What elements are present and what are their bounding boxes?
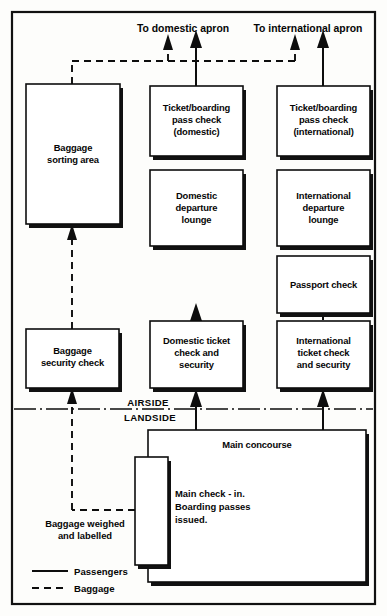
box-label-line-0: Passport check xyxy=(290,279,358,290)
box-label-line-2: and security xyxy=(297,359,351,370)
box-international-ticket-check-and-security[interactable]: International ticket check and security xyxy=(277,321,373,392)
box-label-line-1: pass check xyxy=(172,114,222,125)
box-label-line-0: Ticket/boarding xyxy=(290,102,358,113)
box-label-line-0: International xyxy=(296,190,350,201)
box-label-line-0: Baggage xyxy=(53,345,92,356)
box-label-line-0: Main concourse xyxy=(222,439,291,450)
label-airside: AIRSIDE xyxy=(127,397,169,408)
box-label-line-2: security xyxy=(179,359,215,370)
legend-passengers-label: Passengers xyxy=(74,566,128,577)
label-to-international-apron: To international apron xyxy=(254,23,363,34)
box-label-line-0: Ticket/boarding xyxy=(163,102,231,113)
box-label-line-0: Domestic ticket xyxy=(163,335,230,346)
box-label-line-0: Baggage xyxy=(54,142,93,153)
flow-diagram-canvas: Baggage sorting area Ticket/boarding pas… xyxy=(0,0,387,616)
box-label-line-2: (international) xyxy=(293,126,353,137)
box-baggage-sorting-area[interactable]: Baggage sorting area xyxy=(26,84,123,228)
note-line-0: Main check - in. xyxy=(175,488,245,499)
box-ticket-boarding-pass-check-domestic[interactable]: Ticket/boarding pass check (domestic) xyxy=(150,86,246,160)
box-label-line-2: (domestic) xyxy=(174,126,220,137)
box-international-departure-lounge[interactable]: International departure lounge xyxy=(277,170,373,250)
box-passport-check[interactable]: Passport check xyxy=(277,256,373,317)
box-domestic-departure-lounge[interactable]: Domestic departure lounge xyxy=(150,170,246,250)
box-label-line-2: lounge xyxy=(182,214,212,225)
box-label-line-0: Domestic xyxy=(176,190,217,201)
baggage-weighed-line-1: and labelled xyxy=(58,530,112,541)
box-label-line-1: sorting area xyxy=(47,154,100,165)
label-to-domestic-apron: To domestic apron xyxy=(137,23,229,34)
legend-baggage-label: Baggage xyxy=(74,583,115,594)
box-label-line-1: ticket check xyxy=(298,347,351,358)
box-domestic-ticket-check-and-security[interactable]: Domestic ticket check and security xyxy=(150,321,246,392)
box-label-line-1: departure xyxy=(303,202,345,213)
baggage-weighed-line-0: Baggage weighed xyxy=(45,518,125,529)
box-label-line-1: pass check xyxy=(299,114,349,125)
box-main-check-in[interactable] xyxy=(135,457,171,569)
box-label-line-1: security check xyxy=(41,357,105,368)
box-label-line-0: International xyxy=(296,335,350,346)
diagram-svg: Baggage sorting area Ticket/boarding pas… xyxy=(0,0,387,616)
label-landside: LANDSIDE xyxy=(124,412,176,423)
note-line-1: Boarding passes xyxy=(175,501,251,512)
box-label-line-1: check and xyxy=(174,347,219,358)
box-ticket-boarding-pass-check-international[interactable]: Ticket/boarding pass check (internationa… xyxy=(277,86,373,160)
box-baggage-security-check[interactable]: Baggage security check xyxy=(26,329,122,392)
box-label-line-2: lounge xyxy=(309,214,339,225)
box-label-line-1: departure xyxy=(176,202,218,213)
note-line-2: issued. xyxy=(175,514,207,525)
